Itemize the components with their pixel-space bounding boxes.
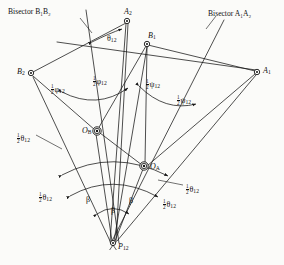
segment-B1-P12 (114, 47, 147, 241)
segment-B1-OB (98, 46, 146, 129)
bisector-a1a2-label: Bisector A₁A₂ (208, 10, 251, 18)
angle-label-theta12-upleft: 12θ12 (17, 133, 30, 144)
segment-B1-A1 (148, 45, 255, 71)
figure-canvas: Bisector B₁B₂ Bisector A₁A₂ A2B1B2A1OBOA… (0, 0, 284, 265)
angle-label-beta-left: β (86, 196, 90, 204)
angle-label-psi12-left: 12ψ12 (146, 79, 160, 90)
segment-B2-B1-extend (57, 42, 256, 70)
leader-bisector-b (80, 18, 92, 33)
segment-A1-OA (147, 74, 255, 166)
point-label-P12: P12 (118, 243, 128, 252)
angle-label-theta12-lowright: 12θ12 (163, 199, 176, 210)
point-marker-OB (93, 127, 101, 135)
point-label-A1: A1 (263, 67, 271, 76)
point-marker-A1 (254, 69, 259, 74)
angle-label-theta12-lowleft: 12θ12 (39, 192, 52, 203)
segment-OB-P12 (96, 134, 112, 241)
point-label-OA: OA (150, 163, 160, 172)
angle-label-theta12-top: θ12 (107, 35, 116, 44)
angle-label-phi12-left: 12φ12 (51, 84, 65, 95)
leader-theta-upright (158, 180, 183, 185)
point-markers-layer (28, 18, 259, 250)
point-label-B2: B2 (17, 68, 25, 77)
point-marker-B1 (144, 41, 149, 46)
angle-label-phi12-right: 12φ12 (93, 76, 107, 87)
arcs-layer (62, 29, 196, 214)
point-label-B1: B1 (148, 32, 156, 41)
angle-label-psi12-right: 12ψ12 (177, 95, 191, 106)
point-marker-B2 (28, 70, 33, 75)
diagram-svg (0, 0, 284, 265)
point-marker-OA (140, 162, 148, 170)
segment-B1-OA (145, 47, 147, 164)
angle-label-beta-center: β (111, 207, 115, 215)
point-marker-P12 (110, 240, 117, 250)
angle-label-beta-right: β (129, 197, 133, 205)
segment-B2-A2 (33, 23, 126, 72)
point-label-A2: A2 (124, 8, 132, 17)
angle-label-theta12-upright: 12θ12 (186, 184, 199, 195)
bisector-b1b2-label: Bisector B₁B₂ (8, 8, 51, 16)
segment-B2-P12 (33, 77, 110, 241)
arc-phi (62, 88, 128, 100)
point-marker-A2 (124, 18, 129, 23)
segment-OB-OA (100, 133, 142, 165)
point-label-OB: OB (82, 127, 92, 136)
leader-theta-upleft (36, 135, 62, 149)
